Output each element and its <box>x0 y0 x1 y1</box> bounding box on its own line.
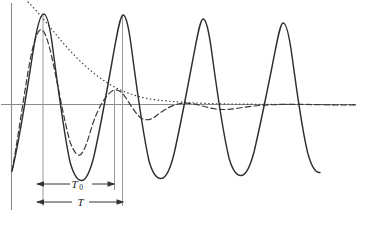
waveform-plot: T 0 T <box>0 0 369 225</box>
t-label: T <box>77 196 84 208</box>
figure-root: T 0 T <box>0 0 369 225</box>
plot-background <box>0 0 369 225</box>
t0-label: T <box>71 178 78 190</box>
t0-label-subscript: 0 <box>79 183 83 192</box>
